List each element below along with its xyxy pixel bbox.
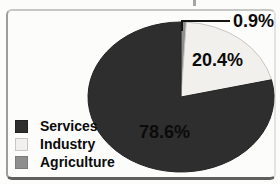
pie-chart-figure: 0.9% 20.4% 78.6% Services Industry Agric… — [0, 0, 280, 184]
label-industry-pct: 20.4% — [192, 51, 243, 69]
legend-item-agriculture: Agriculture — [15, 155, 115, 169]
legend-label-services: Services — [40, 119, 98, 133]
legend-item-industry: Industry — [15, 137, 115, 151]
legend-swatch-services — [15, 120, 28, 133]
label-agriculture-pct: 0.9% — [233, 12, 274, 30]
legend-label-industry: Industry — [40, 137, 95, 151]
legend-item-services: Services — [15, 119, 115, 133]
legend-swatch-industry — [15, 138, 28, 151]
legend-swatch-agriculture — [15, 156, 28, 169]
legend: Services Industry Agriculture — [15, 119, 115, 169]
legend-label-agriculture: Agriculture — [40, 155, 115, 169]
label-services-pct: 78.6% — [139, 123, 190, 141]
